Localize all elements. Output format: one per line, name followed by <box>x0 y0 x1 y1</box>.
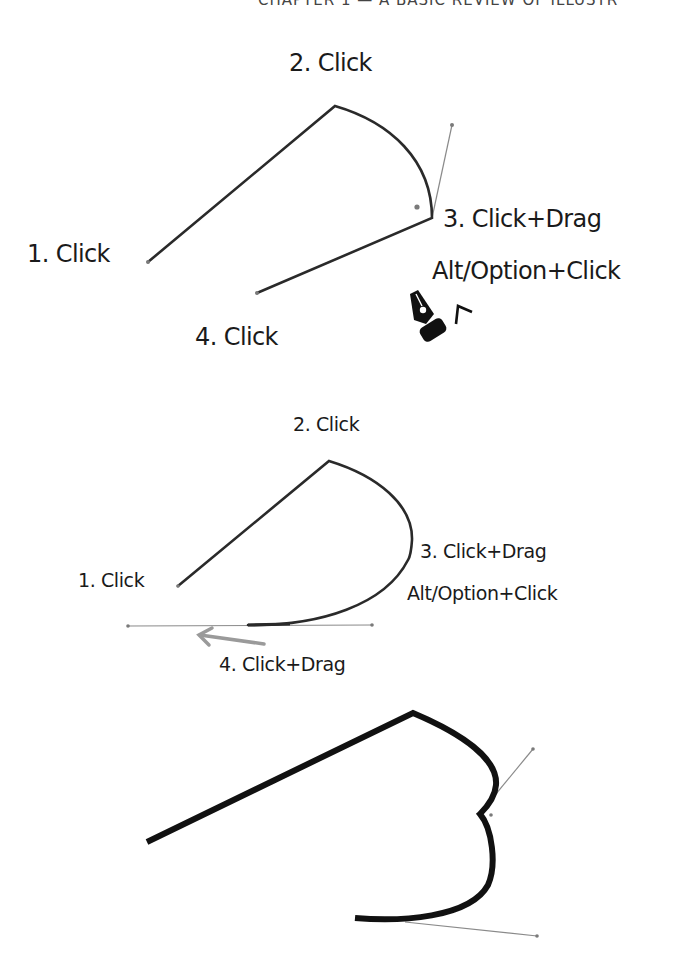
figure-1: 2. Click 1. Click 3. Click+Drag Alt/Opti… <box>27 49 621 351</box>
figure-2-label-step4: 4. Click+Drag <box>219 653 345 675</box>
figure-1-center-point <box>414 204 419 209</box>
figure-2-handle-point-left[interactable] <box>126 624 130 628</box>
pen-tool-convert-cursor-icon <box>410 290 472 344</box>
figure-2-label-step2: 2. Click <box>293 413 360 435</box>
figure-3-lower-handle-point[interactable] <box>535 934 539 938</box>
figure-3-center-point <box>489 813 493 817</box>
figure-1-label-step3: 3. Click+Drag <box>443 205 601 233</box>
figure-2-anchor-1[interactable] <box>176 584 180 588</box>
figure-3 <box>147 713 539 938</box>
figure-1-path[interactable] <box>148 106 432 293</box>
drag-direction-arrow-icon <box>199 628 264 645</box>
figure-3-upper-handle-point[interactable] <box>531 747 535 751</box>
figure-1-label-step1: 1. Click <box>27 240 111 268</box>
figure-1-label-step2: 2. Click <box>289 49 373 77</box>
figure-2-handle-point-right[interactable] <box>370 623 374 627</box>
illustration-canvas: 2. Click 1. Click 3. Click+Drag Alt/Opti… <box>0 0 678 967</box>
figure-1-label-step3-modifier: Alt/Option+Click <box>432 257 621 285</box>
figure-3-lower-handle[interactable] <box>405 922 537 936</box>
figure-1-anchor-1[interactable] <box>146 260 150 264</box>
figure-2-path-end <box>248 624 290 625</box>
figure-2-label-step1: 1. Click <box>78 569 145 591</box>
figure-2-label-step3-modifier: Alt/Option+Click <box>407 582 558 604</box>
figure-2-path[interactable] <box>178 461 412 625</box>
figure-1-label-step4: 4. Click <box>195 323 279 351</box>
figure-2: 2. Click 1. Click 3. Click+Drag Alt/Opti… <box>78 413 558 675</box>
figure-3-path[interactable] <box>147 713 496 919</box>
figure-1-anchor-4[interactable] <box>255 291 259 295</box>
figure-1-handle-point[interactable] <box>450 123 454 127</box>
figure-2-label-step3: 3. Click+Drag <box>420 540 546 562</box>
